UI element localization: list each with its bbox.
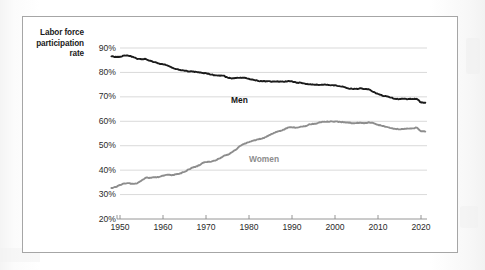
x-axis-tick-label: 2010 <box>358 222 398 232</box>
y-axis-tick-label: 80% <box>90 68 116 77</box>
y-axis-tick-label: 40% <box>90 166 116 175</box>
y-axis-title: Labor force participation rate <box>6 28 84 60</box>
y-axis-title-line-3: rate <box>6 49 84 60</box>
y-axis-title-line-2: participation <box>6 39 84 50</box>
series-label-women: Women <box>249 155 279 164</box>
x-axis-tick-label: 1980 <box>229 222 269 232</box>
y-axis-tick-label: 30% <box>90 190 116 199</box>
x-axis-tick-label: 1970 <box>186 222 226 232</box>
y-axis-tick-label: 70% <box>90 92 116 101</box>
x-axis-tick-label: 1950 <box>100 222 140 232</box>
y-axis-title-line-1: Labor force <box>6 28 84 39</box>
series-label-men: Men <box>231 96 248 105</box>
x-axis-tick-label: 2000 <box>315 222 355 232</box>
y-axis-tick-label: 90% <box>90 44 116 53</box>
x-axis-tick-labels: 19501960197019801990200020102020 <box>0 222 485 236</box>
y-axis-tick-label: 50% <box>90 141 116 150</box>
x-axis-tick-label: 1960 <box>143 222 183 232</box>
x-axis-tick-label: 1990 <box>272 222 312 232</box>
y-axis-tick-label: 60% <box>90 117 116 126</box>
x-axis-tick-label: 2020 <box>401 222 441 232</box>
scan-artifact <box>466 38 480 74</box>
scanned-figure-page: Labor force participation rate 90%80%70%… <box>0 0 485 270</box>
